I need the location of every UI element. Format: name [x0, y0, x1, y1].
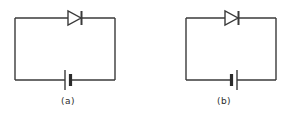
- diode-triangle-a: [68, 11, 81, 25]
- panel-caption-b: (b): [196, 96, 252, 106]
- battery-a: [65, 70, 71, 90]
- diode-triangle-b: [225, 11, 238, 25]
- circuit-figure: (a) (b): [0, 0, 291, 115]
- circuit-panel-b: [186, 11, 276, 90]
- battery-b: [232, 70, 238, 90]
- diode-b: [225, 11, 239, 25]
- panel-caption-a: (a): [40, 96, 96, 106]
- circuit-panel-a: [15, 11, 115, 90]
- diode-a: [68, 11, 82, 25]
